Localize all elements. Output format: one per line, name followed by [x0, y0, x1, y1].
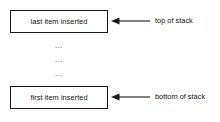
annotation-bottom-label: bottom of stack [155, 93, 205, 100]
ellipsis-row: ... [55, 70, 63, 78]
annotation-bottom-of-stack: bottom of stack [110, 91, 205, 103]
stack-box-bottom-label: first item inserted [30, 94, 87, 101]
left-arrow-icon [110, 91, 150, 103]
annotation-top-of-stack: top of stack [110, 15, 193, 27]
stack-diagram: last item inserted ... ... ... first ite… [0, 0, 220, 122]
stack-box-top: last item inserted [10, 10, 108, 33]
ellipsis-row: ... [55, 56, 63, 64]
annotation-top-label: top of stack [155, 17, 193, 24]
stack-box-top-label: last item inserted [31, 18, 88, 25]
ellipsis-row: ... [55, 42, 63, 50]
stack-box-bottom: first item inserted [10, 86, 108, 109]
left-arrow-icon [110, 15, 150, 27]
ellipsis-group: ... ... ... [44, 42, 74, 78]
